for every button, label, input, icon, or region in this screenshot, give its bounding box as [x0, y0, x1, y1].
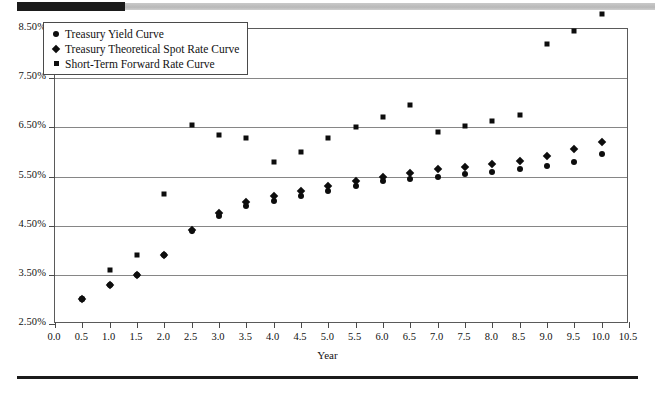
x-axis-tick-label: 1.5 [129, 331, 142, 342]
x-axis-tick-label: 4.0 [266, 331, 279, 342]
x-axis-tick [110, 322, 111, 328]
data-point-square [463, 124, 468, 129]
x-axis-tick [82, 322, 83, 328]
data-point-circle [435, 174, 441, 180]
legend-entry-forward: Short-Term Forward Rate Curve [49, 56, 239, 71]
x-axis-tick-labels: 0.00.51.01.52.02.53.03.54.04.55.05.56.06… [54, 331, 628, 347]
data-point-circle [571, 159, 577, 165]
x-axis-tick [301, 322, 302, 328]
x-axis-tick-label: 9.0 [539, 331, 552, 342]
x-axis-tick [356, 322, 357, 328]
y-axis-tick [49, 275, 55, 276]
x-axis-title: Year [0, 349, 655, 361]
legend-label-yield: Treasury Yield Curve [63, 28, 164, 40]
y-axis-tick [49, 177, 55, 178]
x-axis-tick [602, 322, 603, 328]
x-axis-tick-label: 5.5 [348, 331, 361, 342]
legend-entry-spot: Treasury Theoretical Spot Rate Curve [49, 41, 239, 56]
y-axis-tick [49, 226, 55, 227]
x-axis-tick [55, 322, 56, 328]
x-axis-tick [192, 322, 193, 328]
legend-square-marker-icon [49, 61, 63, 66]
y-axis-tick [49, 324, 55, 325]
x-axis-tick-label: 8.5 [512, 331, 525, 342]
data-point-diamond [515, 157, 523, 165]
gridline-y [55, 226, 627, 227]
x-axis-tick-label: 7.0 [430, 331, 443, 342]
x-axis-tick [383, 322, 384, 328]
y-axis-tick-label: 5.50% [18, 169, 46, 180]
x-axis-tick [438, 322, 439, 328]
data-point-diamond [597, 138, 605, 146]
gridline-y [55, 127, 627, 128]
legend-diamond-marker-icon [49, 46, 63, 52]
x-axis-tick-label: 1.0 [102, 331, 115, 342]
data-point-diamond [570, 145, 578, 153]
x-axis-tick-label: 9.5 [567, 331, 580, 342]
y-axis-tick-label: 6.50% [18, 119, 46, 130]
data-point-square [545, 41, 550, 46]
data-point-diamond [488, 160, 496, 168]
data-point-square [217, 132, 222, 137]
x-axis-tick [465, 322, 466, 328]
chart-legend: Treasury Yield Curve Treasury Theoretica… [43, 22, 248, 75]
x-axis-tick [574, 322, 575, 328]
legend-circle-marker-icon [49, 31, 63, 37]
data-point-square [244, 136, 249, 141]
x-axis-tick [629, 322, 630, 328]
data-point-square [107, 267, 112, 272]
x-axis-tick-label: 2.5 [184, 331, 197, 342]
legend-label-forward: Short-Term Forward Rate Curve [63, 58, 215, 70]
data-point-square [517, 113, 522, 118]
y-axis-tick [49, 78, 55, 79]
x-axis-tick-label: 10.0 [591, 331, 609, 342]
x-axis-tick [520, 322, 521, 328]
x-axis-tick [246, 322, 247, 328]
data-point-square [80, 297, 85, 302]
x-axis-tick-label: 0.0 [47, 331, 60, 342]
x-axis-tick-label: 6.0 [375, 331, 388, 342]
data-point-diamond [461, 162, 469, 170]
chart-figure: 2.50%3.50%4.50%5.50%6.50%7.50%8.50% 0.00… [0, 0, 655, 393]
footer-rule [17, 376, 638, 379]
data-point-circle [489, 169, 495, 175]
y-axis-tick-label: 2.50% [18, 316, 46, 327]
x-axis-tick-label: 5.0 [321, 331, 334, 342]
x-axis-tick-label: 8.0 [485, 331, 498, 342]
y-axis-tick [49, 127, 55, 128]
data-point-circle [544, 163, 550, 169]
y-axis-tick-label: 7.50% [18, 70, 46, 81]
x-axis-tick [274, 322, 275, 328]
x-axis-tick [164, 322, 165, 328]
data-point-square [435, 130, 440, 135]
gridline-y [55, 177, 627, 178]
data-point-square [326, 136, 331, 141]
data-point-circle [599, 151, 605, 157]
x-axis-tick [492, 322, 493, 328]
legend-entry-yield: Treasury Yield Curve [49, 26, 239, 41]
data-point-diamond [160, 251, 168, 259]
x-axis-tick [328, 322, 329, 328]
data-point-square [408, 103, 413, 108]
x-axis-tick-label: 3.0 [211, 331, 224, 342]
data-point-square [189, 122, 194, 127]
x-axis-tick-label: 4.5 [293, 331, 306, 342]
data-point-square [271, 159, 276, 164]
data-point-circle [462, 171, 468, 177]
x-axis-tick-label: 0.5 [75, 331, 88, 342]
x-axis-tick [137, 322, 138, 328]
x-axis-tick-label: 3.5 [239, 331, 252, 342]
x-axis-tick [547, 322, 548, 328]
data-point-circle [517, 166, 523, 172]
data-point-square [162, 191, 167, 196]
data-point-square [299, 149, 304, 154]
x-axis-tick-label: 7.5 [457, 331, 470, 342]
data-point-diamond [433, 165, 441, 173]
data-point-square [353, 125, 358, 130]
x-axis-tick [219, 322, 220, 328]
data-point-square [135, 253, 140, 258]
y-axis-tick-label: 3.50% [18, 267, 46, 278]
data-point-diamond [543, 152, 551, 160]
x-axis-tick-label: 6.5 [403, 331, 416, 342]
data-point-square [381, 114, 386, 119]
